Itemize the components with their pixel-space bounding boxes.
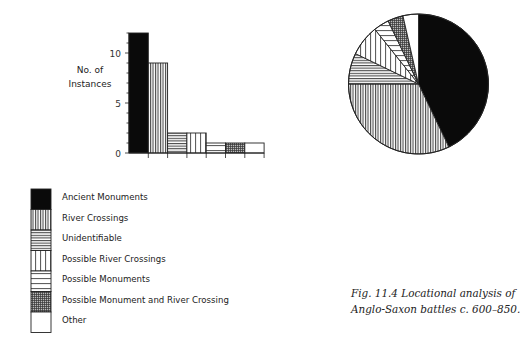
legend-label: Unidentifiable	[62, 233, 122, 243]
legend-label: Possible River Crossings	[62, 254, 166, 264]
pie-chart	[330, 0, 520, 175]
svg-text:0: 0	[115, 149, 121, 159]
legend-label: Possible Monuments	[62, 274, 150, 284]
legend-label: River Crossings	[62, 213, 128, 223]
caption-line1: Fig. 11.4 Locational analysis of	[351, 285, 520, 301]
legend-label: Possible Monument and River Crossing	[62, 295, 229, 305]
legend-swatch-column	[30, 188, 52, 334]
bar-chart: 0510	[0, 0, 300, 175]
legend-label: Ancient Monuments	[62, 192, 148, 202]
bar-ancient-monuments	[129, 33, 148, 153]
bar-unidentifiable	[168, 133, 187, 153]
svg-text:5: 5	[115, 99, 121, 109]
legend-label: Other	[62, 315, 86, 325]
bar-possible-monuments	[206, 143, 225, 153]
bar-other	[245, 143, 264, 153]
y-axis-label: No. of Instances	[55, 63, 125, 91]
caption-line2: Anglo-Saxon battles c. 600–850.	[351, 301, 520, 317]
svg-text:10: 10	[110, 49, 122, 59]
y-axis-label-line1: No. of	[55, 63, 125, 77]
bar-possible-monument-and-river-crossing	[226, 143, 245, 153]
bar-possible-river-crossings	[187, 133, 206, 153]
figure-caption: Fig. 11.4 Locational analysis of Anglo-S…	[351, 285, 520, 317]
y-axis-label-line2: Instances	[55, 77, 125, 91]
bar-river-crossings	[148, 63, 167, 153]
